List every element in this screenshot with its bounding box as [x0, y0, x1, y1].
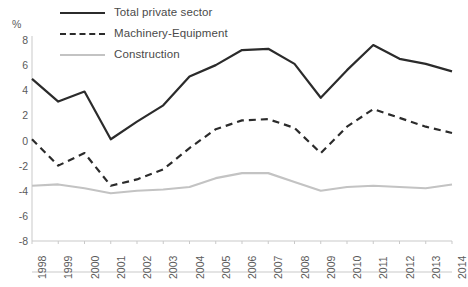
series-line-construction [32, 173, 452, 193]
x-axis-tick-2006: 2006 [247, 256, 258, 279]
x-axis-tick-2001: 2001 [116, 256, 127, 279]
x-axis-tick-2011: 2011 [378, 256, 389, 279]
x-axis-tick-2007: 2007 [273, 256, 284, 279]
x-axis-tick-2002: 2002 [142, 256, 153, 279]
y-axis-tick-neg6: -6 [2, 211, 28, 222]
series-line-total-private-sector [32, 45, 452, 139]
y-axis-tick-8: 8 [2, 35, 28, 46]
y-axis-tick-neg4: -4 [2, 186, 28, 197]
x-axis-tick-1999: 1999 [63, 256, 74, 279]
x-axis-tick-1998: 1998 [37, 256, 48, 279]
x-axis-tick-2000: 2000 [90, 256, 101, 279]
x-axis-tick-2005: 2005 [221, 256, 232, 279]
x-axis-tick-2003: 2003 [168, 256, 179, 279]
y-axis-tick-4: 4 [2, 85, 28, 96]
x-axis-tick-2012: 2012 [405, 256, 416, 279]
x-axis-tick-2004: 2004 [195, 256, 206, 279]
y-axis-tick-neg2: -2 [2, 161, 28, 172]
x-axis-tick-2014: 2014 [457, 256, 468, 279]
x-axis-tick-2008: 2008 [300, 256, 311, 279]
y-axis-tick-0: 0 [2, 136, 28, 147]
x-axis-tick-2013: 2013 [431, 256, 442, 279]
x-axis-tick-2009: 2009 [326, 256, 337, 279]
y-axis-tick-neg8: -8 [2, 236, 28, 247]
y-axis-tick-6: 6 [2, 60, 28, 71]
x-axis-tick-2010: 2010 [352, 256, 363, 279]
y-axis-tick-2: 2 [2, 110, 28, 121]
